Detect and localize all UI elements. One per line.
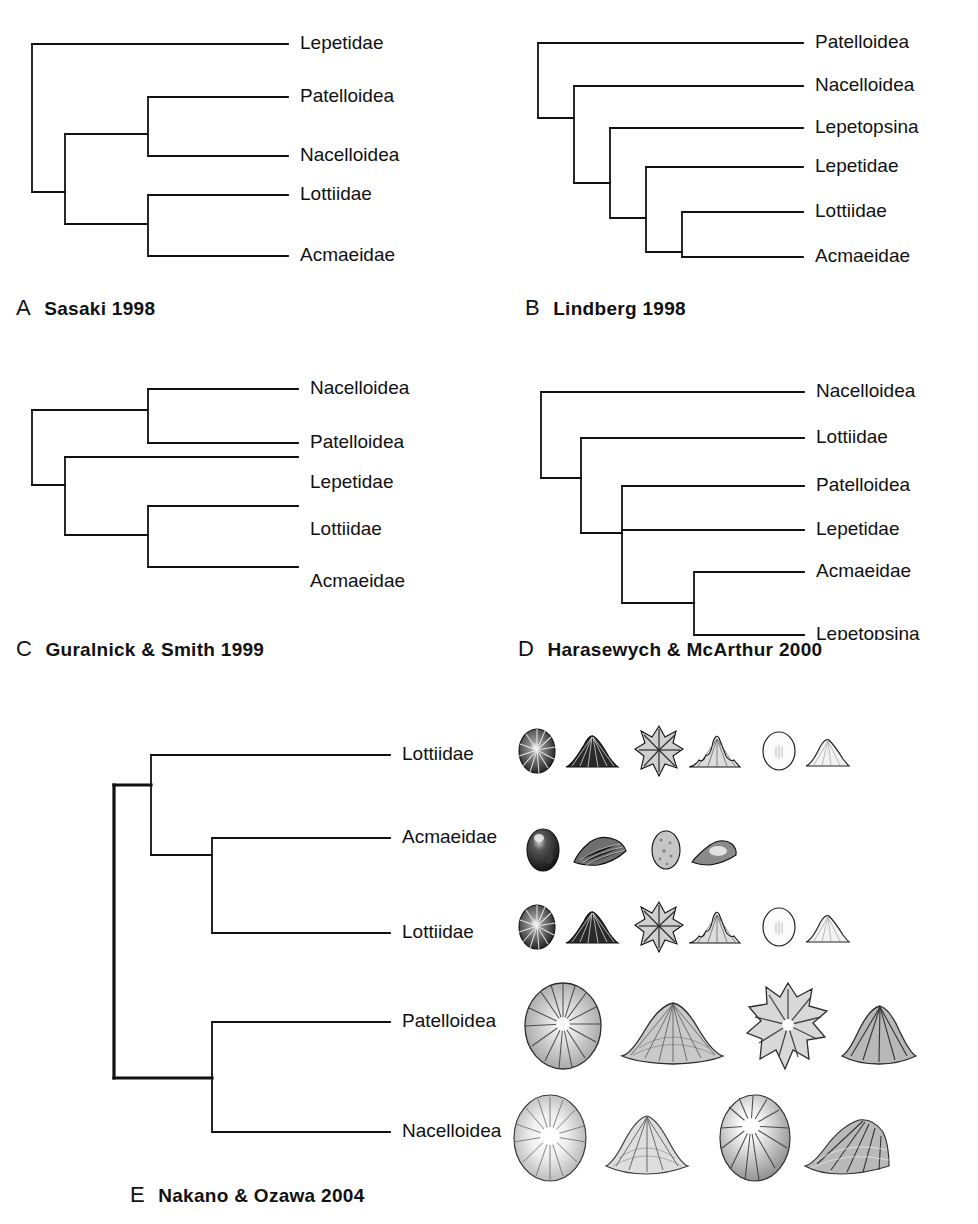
panel-caption-text: Lindberg 1998 xyxy=(553,298,686,319)
tip-label: Lottiidae xyxy=(300,183,372,204)
panel-letter: A xyxy=(16,295,31,320)
panel-e-tree-svg: Lottiidae Acmaeidae Lottiidae Patelloide… xyxy=(90,700,510,1160)
tip-label: Nacelloidea xyxy=(402,1120,502,1141)
tip-label: Lottiidae xyxy=(402,743,474,764)
tip-label: Nacelloidea xyxy=(310,377,410,398)
panel-a-caption: ASasaki 1998 xyxy=(16,295,155,321)
panel-letter: E xyxy=(130,1182,145,1207)
panel-a-tree-svg: Lepetidae Patelloidea Nacelloidea Lottii… xyxy=(0,0,500,290)
panel-b-cladogram: Patelloidea Nacelloidea Lepetopsina Lepe… xyxy=(510,0,978,290)
panel-letter: C xyxy=(16,636,32,661)
shell-dorsal-large-eccentric-radial-icon xyxy=(711,1090,799,1186)
tip-label: Lottiidae xyxy=(402,921,474,942)
shell-row-lottiidae-1 xyxy=(512,722,852,780)
tip-label: Acmaeidae xyxy=(300,244,395,265)
shell-dorsal-speckled-oval-icon xyxy=(644,822,688,878)
panel-c-branches xyxy=(32,389,298,567)
panel-a-branches xyxy=(32,44,288,256)
panel-caption-text: Harasewych & McArthur 2000 xyxy=(547,639,822,660)
panel-e-cladogram: Lottiidae Acmaeidae Lottiidae Patelloide… xyxy=(90,700,510,1160)
shell-dorsal-stellate-icon xyxy=(632,722,686,780)
panel-e-caption: ENakano & Ozawa 2004 xyxy=(130,1182,365,1208)
panel-caption-text: Sasaki 1998 xyxy=(44,298,155,319)
shell-lateral-conical-dark-icon xyxy=(562,723,622,779)
tip-label: Nacelloidea xyxy=(300,144,400,165)
panel-a-cladogram: Lepetidae Patelloidea Nacelloidea Lottii… xyxy=(0,0,500,290)
tip-label: Lepetopsina xyxy=(816,623,920,640)
panel-d-tip-labels: Nacelloidea Lottiidae Patelloidea Lepeti… xyxy=(816,380,920,640)
panel-c-tree-svg: Nacelloidea Patelloidea Lepetidae Lottii… xyxy=(0,350,500,640)
panel-b-branches xyxy=(538,43,803,257)
tip-label: Nacelloidea xyxy=(815,74,915,95)
shell-dorsal-plain-oval-icon xyxy=(756,901,802,953)
tip-label: Lepetidae xyxy=(300,32,383,53)
panel-b-tip-labels: Patelloidea Nacelloidea Lepetopsina Lepe… xyxy=(815,31,919,266)
panel-letter: D xyxy=(518,636,534,661)
shell-lateral-plain-dome-icon xyxy=(802,901,852,953)
panel-c-tip-labels: Nacelloidea Patelloidea Lepetidae Lottii… xyxy=(310,377,410,591)
shell-dorsal-stellate-icon xyxy=(632,898,686,956)
tip-label: Lepetidae xyxy=(816,518,899,539)
shell-row-acmaeidae xyxy=(520,822,740,878)
panel-c-cladogram: Nacelloidea Patelloidea Lepetidae Lottii… xyxy=(0,350,500,640)
shell-dorsal-large-stellate-icon xyxy=(743,979,833,1073)
panel-b-caption: BLindberg 1998 xyxy=(525,295,686,321)
shell-dorsal-mottled-dark-icon xyxy=(520,822,566,878)
tip-label: Acmaeidae xyxy=(310,570,405,591)
shell-dorsal-ribbed-dark-icon xyxy=(512,899,562,955)
tip-label: Patelloidea xyxy=(300,85,394,106)
panel-e-tip-labels: Lottiidae Acmaeidae Lottiidae Patelloide… xyxy=(402,743,502,1141)
tip-label: Patelloidea xyxy=(815,31,909,52)
shell-dorsal-large-radial-icon xyxy=(515,978,611,1074)
tip-label: Acmaeidae xyxy=(816,560,911,581)
tip-label: Lottiidae xyxy=(310,518,382,539)
tip-label: Acmaeidae xyxy=(815,245,910,266)
tip-label: Nacelloidea xyxy=(816,380,916,401)
tip-label: Lepetidae xyxy=(310,471,393,492)
tip-label: Lepetopsina xyxy=(815,116,919,137)
shell-dorsal-ribbed-dark-icon xyxy=(512,723,562,779)
tip-label: Patelloidea xyxy=(816,474,910,495)
shell-row-nacelloidea xyxy=(505,1090,893,1186)
panel-d-branches xyxy=(541,392,804,635)
panel-b-tree-svg: Patelloidea Nacelloidea Lepetopsina Lepe… xyxy=(510,0,978,290)
shell-lateral-large-ridged-icon xyxy=(837,980,921,1072)
figure-root: Lepetidae Patelloidea Nacelloidea Lottii… xyxy=(0,0,978,1224)
panel-c-caption: CGuralnick & Smith 1999 xyxy=(16,636,264,662)
shell-lateral-wedge-icon xyxy=(688,822,740,878)
shell-lateral-stellate-icon xyxy=(686,722,742,780)
shell-row-lottiidae-2 xyxy=(512,898,852,956)
shell-lateral-large-dome-icon xyxy=(617,978,729,1074)
panel-a-tip-labels: Lepetidae Patelloidea Nacelloidea Lottii… xyxy=(300,32,400,265)
panel-d-cladogram: Nacelloidea Lottiidae Patelloidea Lepeti… xyxy=(500,350,978,640)
tip-label: Lottiidae xyxy=(815,200,887,221)
panel-d-caption: DHarasewych & McArthur 2000 xyxy=(518,636,822,662)
panel-d-tree-svg: Nacelloidea Lottiidae Patelloidea Lepeti… xyxy=(500,350,978,640)
tip-label: Lepetidae xyxy=(815,155,898,176)
panel-caption-text: Nakano & Ozawa 2004 xyxy=(158,1185,364,1206)
shell-dorsal-plain-oval-icon xyxy=(756,725,802,777)
panel-e-branches xyxy=(114,755,390,1132)
shell-lateral-plain-dome-icon xyxy=(802,725,852,777)
panel-letter: B xyxy=(525,295,540,320)
shell-lateral-stellate-icon xyxy=(686,898,742,956)
shell-lateral-large-pale-dome-icon xyxy=(601,1092,693,1184)
tip-label: Acmaeidae xyxy=(402,826,497,847)
shell-lateral-low-arched-icon xyxy=(570,822,630,878)
tip-label: Lottiidae xyxy=(816,426,888,447)
tip-label: Patelloidea xyxy=(310,431,404,452)
shell-dorsal-large-pale-radial-icon xyxy=(505,1090,595,1186)
shell-lateral-large-striped-dome-icon xyxy=(801,1092,893,1184)
panel-caption-text: Guralnick & Smith 1999 xyxy=(45,639,264,660)
tip-label: Patelloidea xyxy=(402,1010,496,1031)
shell-lateral-conical-dark-icon xyxy=(562,899,622,955)
shell-row-patelloidea xyxy=(515,978,921,1074)
